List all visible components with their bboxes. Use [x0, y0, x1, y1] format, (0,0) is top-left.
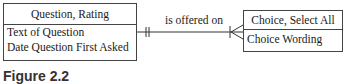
entity-name: Choice, Select All [244, 11, 342, 30]
relationship-label: is offered on [165, 14, 223, 26]
figure-caption: Figure 2.2 [3, 68, 69, 84]
entity-attribute: Choice Wording [244, 30, 342, 47]
entity-choice-select-all: Choice, Select All Choice Wording [243, 10, 343, 52]
